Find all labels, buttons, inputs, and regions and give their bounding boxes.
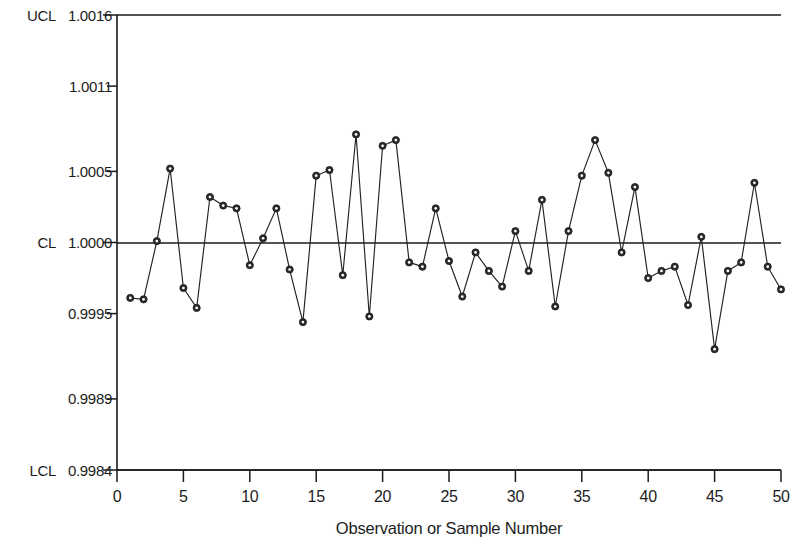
- data-point-marker: [326, 166, 333, 173]
- marker-center: [315, 174, 318, 177]
- data-point-marker: [565, 228, 572, 235]
- data-point-marker: [645, 274, 652, 281]
- marker-center: [673, 265, 676, 268]
- data-point-marker: [246, 262, 253, 269]
- marker-center: [434, 207, 437, 210]
- control-limit-label-lcl: LCL: [29, 462, 56, 479]
- y-tick-label: 1.0011: [69, 78, 112, 95]
- marker-center: [527, 270, 530, 273]
- data-point-marker: [273, 205, 280, 212]
- marker-center: [262, 237, 265, 240]
- data-point-marker: [459, 293, 466, 300]
- x-tick-label: 0: [113, 488, 122, 505]
- data-point-marker: [631, 183, 638, 190]
- data-point-marker: [339, 272, 346, 279]
- data-point-marker: [777, 286, 784, 293]
- y-tick-label: 0.9995: [68, 305, 112, 322]
- data-point-marker: [684, 301, 691, 308]
- control-limit-label-cl: CL: [37, 234, 56, 251]
- marker-center: [700, 235, 703, 238]
- data-point-marker: [392, 137, 399, 144]
- data-point-marker: [432, 205, 439, 212]
- marker-center: [248, 264, 251, 267]
- marker-center: [355, 133, 358, 136]
- data-point-marker: [552, 303, 559, 310]
- marker-center: [474, 251, 477, 254]
- marker-center: [594, 139, 597, 142]
- data-point-marker: [127, 294, 134, 301]
- marker-center: [129, 297, 132, 300]
- x-tick-label: 20: [374, 488, 392, 505]
- marker-center: [195, 307, 198, 310]
- data-point-marker: [591, 137, 598, 144]
- x-tick-label: 35: [573, 488, 591, 505]
- data-point-marker: [193, 304, 200, 311]
- marker-center: [487, 270, 490, 273]
- marker-center: [368, 315, 371, 318]
- marker-center: [155, 240, 158, 243]
- chart-background: [0, 0, 793, 548]
- y-tick-label: 1.0005: [68, 163, 112, 180]
- data-point-marker: [220, 202, 227, 209]
- control-chart-page: 1.0016UCL1.00111.00051.0000CL0.99950.998…: [0, 0, 793, 548]
- marker-center: [514, 230, 517, 233]
- marker-center: [554, 305, 557, 308]
- data-point-marker: [419, 263, 426, 270]
- x-tick-label: 45: [706, 488, 724, 505]
- data-point-marker: [658, 267, 665, 274]
- control-chart-plot: 1.0016UCL1.00111.00051.0000CL0.99950.998…: [0, 0, 793, 548]
- marker-center: [620, 251, 623, 254]
- data-point-marker: [605, 169, 612, 176]
- marker-center: [780, 288, 783, 291]
- data-point-marker: [140, 296, 147, 303]
- marker-center: [408, 261, 411, 264]
- data-point-marker: [352, 131, 359, 138]
- x-tick-label: 15: [308, 488, 326, 505]
- data-point-marker: [578, 172, 585, 179]
- marker-center: [288, 268, 291, 271]
- marker-center: [660, 270, 663, 273]
- data-point-marker: [671, 263, 678, 270]
- data-point-marker: [724, 267, 731, 274]
- marker-center: [235, 207, 238, 210]
- data-point-marker: [406, 259, 413, 266]
- data-point-marker: [180, 284, 187, 291]
- x-axis-title: Observation or Sample Number: [336, 519, 563, 537]
- x-tick-label: 25: [440, 488, 458, 505]
- data-point-marker: [286, 266, 293, 273]
- marker-center: [607, 171, 610, 174]
- marker-center: [328, 169, 331, 172]
- data-point-marker: [366, 313, 373, 320]
- data-point-marker: [313, 172, 320, 179]
- marker-center: [580, 174, 583, 177]
- data-point-marker: [485, 267, 492, 274]
- marker-center: [501, 285, 504, 288]
- data-point-marker: [618, 249, 625, 256]
- data-point-marker: [751, 179, 758, 186]
- marker-center: [766, 265, 769, 268]
- x-tick-label: 50: [772, 488, 790, 505]
- marker-center: [275, 207, 278, 210]
- marker-center: [421, 265, 424, 268]
- marker-center: [395, 139, 398, 142]
- marker-center: [541, 198, 544, 201]
- marker-center: [740, 261, 743, 264]
- data-point-marker: [538, 196, 545, 203]
- marker-center: [567, 230, 570, 233]
- marker-center: [381, 144, 384, 147]
- x-tick-label: 10: [241, 488, 259, 505]
- data-point-marker: [206, 193, 213, 200]
- marker-center: [222, 204, 225, 207]
- control-limit-label-ucl: UCL: [27, 7, 56, 24]
- data-point-marker: [472, 249, 479, 256]
- data-point-marker: [445, 257, 452, 264]
- data-point-marker: [525, 267, 532, 274]
- marker-center: [647, 277, 650, 280]
- data-point-marker: [167, 165, 174, 172]
- data-point-marker: [233, 205, 240, 212]
- x-tick-label: 5: [179, 488, 188, 505]
- data-point-marker: [299, 319, 306, 326]
- marker-center: [713, 348, 716, 351]
- marker-center: [727, 270, 730, 273]
- data-point-marker: [698, 233, 705, 240]
